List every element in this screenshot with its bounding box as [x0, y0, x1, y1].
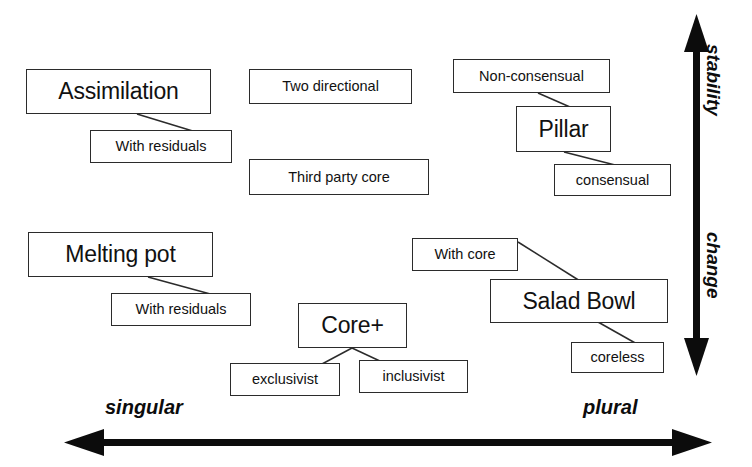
node-exclusivist[interactable]: exclusivist: [230, 363, 340, 396]
node-third-party-core[interactable]: Third party core: [249, 159, 429, 195]
node-consensual-label: consensual: [576, 173, 649, 188]
axis-label-singular: singular: [105, 396, 183, 419]
node-with-core-label: With core: [434, 247, 495, 262]
node-assimilation-with-residuals-label: With residuals: [115, 139, 206, 154]
node-pillar-label: Pillar: [539, 118, 589, 141]
node-non-consensual[interactable]: Non-consensual: [453, 59, 610, 93]
node-melting-pot-with-residuals-label: With residuals: [135, 302, 226, 317]
node-two-directional-label: Two directional: [282, 79, 379, 94]
node-core-plus-label: Core+: [321, 314, 383, 337]
node-inclusivist[interactable]: inclusivist: [359, 360, 468, 393]
node-salad-bowl-label: Salad Bowl: [522, 290, 635, 313]
node-consensual[interactable]: consensual: [554, 164, 671, 196]
node-assimilation[interactable]: Assimilation: [26, 69, 211, 114]
axis-label-plural: plural: [583, 396, 637, 419]
axis-label-change: change: [702, 232, 724, 299]
connector-core-plus-to-exclusivist: [322, 348, 352, 364]
node-coreless[interactable]: coreless: [571, 342, 664, 373]
node-assimilation-with-residuals[interactable]: With residuals: [90, 130, 232, 163]
node-two-directional[interactable]: Two directional: [249, 69, 412, 104]
node-core-plus[interactable]: Core+: [298, 303, 407, 348]
horizontal-axis-arrow: [64, 429, 712, 456]
node-melting-pot-with-residuals[interactable]: With residuals: [111, 293, 251, 326]
connector-non-consensual-to-pillar: [538, 93, 570, 107]
connector-salad-bowl-to-coreless: [598, 322, 637, 344]
node-inclusivist-label: inclusivist: [382, 369, 444, 384]
node-third-party-core-label: Third party core: [288, 170, 390, 185]
node-melting-pot[interactable]: Melting pot: [28, 232, 213, 277]
node-salad-bowl[interactable]: Salad Bowl: [490, 279, 668, 323]
node-exclusivist-label: exclusivist: [252, 372, 318, 387]
diagram-canvas: Assimilation With residuals Two directio…: [0, 0, 752, 467]
connector-with-core-to-salad-bowl: [518, 242, 580, 281]
axis-label-stability: stability: [702, 44, 724, 116]
node-with-core[interactable]: With core: [412, 238, 518, 271]
node-pillar[interactable]: Pillar: [516, 106, 611, 152]
node-assimilation-label: Assimilation: [58, 80, 178, 103]
node-coreless-label: coreless: [591, 350, 645, 365]
node-non-consensual-label: Non-consensual: [479, 69, 584, 84]
node-melting-pot-label: Melting pot: [65, 243, 175, 266]
